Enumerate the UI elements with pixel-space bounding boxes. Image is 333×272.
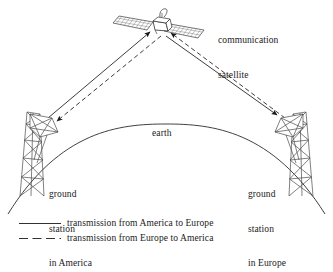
- label-ground-america-line1: ground: [49, 189, 92, 201]
- legend-label-dashed: transmission from Europe to America: [67, 233, 214, 244]
- label-communication-satellite: communication satellite: [218, 12, 278, 104]
- legend-item-dashed: transmission from Europe to America: [17, 231, 317, 246]
- label-ground-europe-line1: ground: [248, 189, 286, 201]
- label-satellite-line1: communication: [218, 35, 278, 47]
- beam-uplink-america-solid: [48, 32, 150, 118]
- satellite-icon: [113, 9, 204, 38]
- legend-label-solid: transmission from America to Europe: [67, 218, 214, 229]
- legend-swatch-solid-line-icon: [17, 218, 67, 229]
- label-ground-europe-line3: in Europe: [248, 258, 286, 270]
- beam-downlink-america-dashed: [57, 36, 161, 121]
- label-satellite-line2: satellite: [218, 70, 278, 82]
- legend: transmission from America to Europe tran…: [17, 216, 317, 246]
- legend-item-solid: transmission from America to Europe: [17, 216, 317, 231]
- label-ground-america-line3: in America: [49, 258, 92, 270]
- legend-swatch-dashed-line-icon: [17, 233, 67, 244]
- label-earth: earth: [152, 128, 172, 140]
